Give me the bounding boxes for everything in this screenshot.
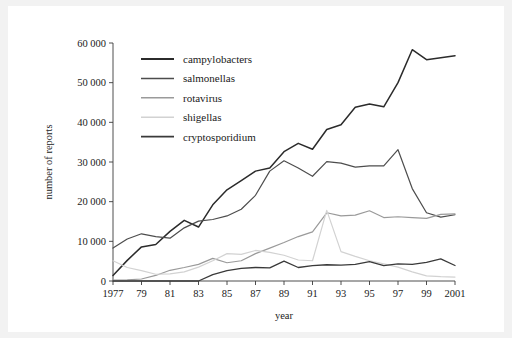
series-layer [113, 50, 455, 281]
x-axis-tick-label: 87 [250, 288, 261, 299]
x-axis-tick-label: 83 [193, 288, 204, 299]
x-axis-tick-label: 97 [393, 288, 404, 299]
series-line-salmonellas [113, 150, 455, 248]
x-axis-tick-label: 79 [136, 288, 147, 299]
figure-panel: 010 00020 00030 00040 00050 00060 000197… [8, 6, 504, 332]
x-axis-tick-label: 89 [279, 288, 290, 299]
x-axis-tick-label: 93 [336, 288, 347, 299]
chart-plot-area: 010 00020 00030 00040 00050 00060 000197… [8, 6, 504, 332]
y-axis-tick-label: 30 000 [77, 157, 106, 168]
y-axis-tick-label: 20 000 [77, 196, 106, 207]
line-chart-svg: 010 00020 00030 00040 00050 00060 000197… [8, 6, 504, 332]
y-axis-tick-label: 40 000 [77, 117, 106, 128]
series-line-campylobacters [113, 50, 455, 276]
x-axis-tick-label: 91 [307, 288, 318, 299]
y-axis-tick-label: 0 [101, 276, 106, 287]
x-axis-tick-label: 85 [222, 288, 233, 299]
y-axis-tick-label: 10 000 [77, 236, 106, 247]
legend-layer[interactable]: campylobacterssalmonellasrotavirusshigel… [141, 53, 256, 143]
legend-label-shigellas[interactable]: shigellas [183, 111, 222, 123]
legend-label-campylobacters[interactable]: campylobacters [183, 53, 252, 65]
y-axis-tick-label: 50 000 [77, 77, 106, 88]
x-axis-tick-label: 95 [364, 288, 375, 299]
x-axis-tick-label: 81 [165, 288, 176, 299]
x-axis-tick-label: 2001 [445, 288, 466, 299]
legend-label-rotavirus[interactable]: rotavirus [183, 92, 222, 104]
series-line-rotavirus [113, 211, 455, 280]
tick-label-layer: 010 00020 00030 00040 00050 00060 000197… [77, 38, 465, 299]
legend-label-salmonellas[interactable]: salmonellas [183, 72, 235, 84]
x-axis-title: year [275, 310, 294, 321]
series-line-shigellas [113, 210, 455, 277]
x-axis-tick-label: 99 [421, 288, 432, 299]
y-axis-tick-label: 60 000 [77, 38, 106, 49]
x-axis-tick-label: 1977 [103, 288, 124, 299]
y-axis-title: number of reports [43, 124, 54, 199]
series-line-cryptosporidium [113, 259, 455, 281]
legend-label-cryptosporidium[interactable]: cryptosporidium [183, 131, 256, 143]
